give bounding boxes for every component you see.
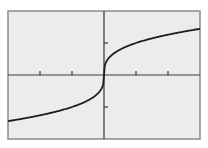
function-graph [0, 0, 208, 148]
